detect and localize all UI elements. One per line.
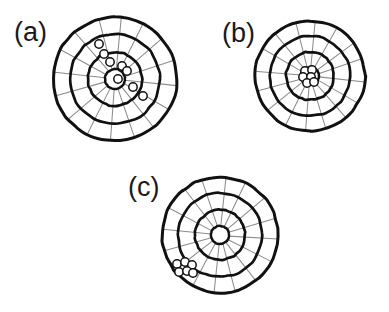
panel-label-a: (a): [14, 17, 47, 47]
shot-marker: [100, 50, 108, 58]
panel-label-b: (b): [222, 18, 255, 48]
shot-marker: [189, 269, 197, 277]
panel-label-c: (c): [128, 172, 159, 202]
shot-marker: [139, 92, 147, 100]
shot-marker: [123, 67, 131, 75]
shot-marker: [310, 78, 318, 86]
shot-marker: [175, 268, 183, 276]
shot-marker: [173, 260, 181, 268]
shot-marker: [95, 40, 103, 48]
shot-marker: [114, 75, 122, 83]
shot-marker: [106, 58, 114, 66]
shot-marker: [129, 83, 137, 91]
marker-group-c: [173, 258, 197, 277]
targets-figure: (a)(b)(c): [0, 0, 389, 312]
